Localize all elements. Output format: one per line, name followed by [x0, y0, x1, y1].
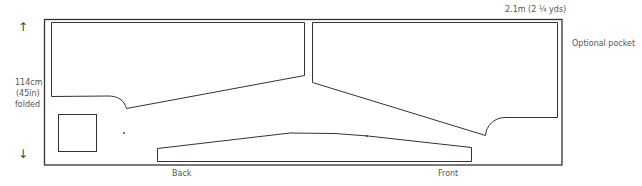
marker-dot [123, 132, 125, 134]
cutting-layout-diagram [0, 0, 642, 186]
front-piece [313, 23, 558, 136]
fabric-outline [45, 20, 563, 166]
gusset-piece [158, 133, 472, 162]
back-piece [52, 23, 305, 109]
pocket-piece [59, 115, 97, 152]
gusset-marker-dot [366, 135, 368, 137]
